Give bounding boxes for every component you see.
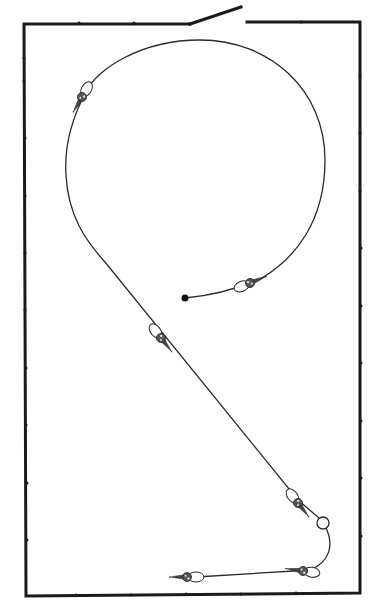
connector-6 <box>169 572 204 582</box>
connector-2 <box>232 272 268 294</box>
diagram-canvas <box>0 0 384 606</box>
frame-ticks <box>23 21 363 597</box>
switch-lever <box>190 7 241 24</box>
connector-4 <box>284 487 313 521</box>
connector-1 <box>69 80 95 115</box>
connectors <box>69 80 321 582</box>
start-dot <box>182 295 189 302</box>
frame <box>24 7 360 596</box>
connector-3 <box>147 322 176 356</box>
end-ring <box>317 517 329 529</box>
